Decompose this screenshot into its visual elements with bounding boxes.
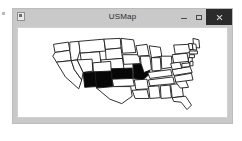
- state-de[interactable]: Delaware: [190, 61, 193, 65]
- close-icon: [216, 14, 223, 21]
- state-mi[interactable]: Michigan: [149, 46, 162, 58]
- state-ar[interactable]: Arkansas: [134, 79, 148, 89]
- state-la[interactable]: Louisiana: [132, 90, 149, 99]
- state-ks[interactable]: Kansas: [111, 68, 133, 79]
- state-nm[interactable]: New Mexico: [95, 71, 113, 88]
- state-mn[interactable]: Minnesota: [121, 38, 136, 53]
- window-controls: [176, 9, 232, 25]
- united-states-map[interactable]: WashingtonOregonIdahoMontanaWyomingNorth…: [18, 28, 227, 117]
- state-ma[interactable]: Massachusetts: [189, 51, 197, 54]
- minimize-icon: [181, 18, 187, 19]
- state-pa[interactable]: Pennsylvania: [172, 53, 188, 63]
- close-button[interactable]: [206, 9, 232, 25]
- state-fl[interactable]: Florida: [172, 96, 191, 109]
- state-sd[interactable]: South Dakota: [105, 48, 122, 60]
- state-wi[interactable]: Wisconsin: [136, 44, 149, 56]
- state-al[interactable]: Alabama: [160, 85, 171, 98]
- state-mt[interactable]: Montana: [79, 39, 106, 53]
- maximize-icon: [196, 15, 202, 20]
- usmap-application-window: USMap WashingtonOregonIdahoMontanaWyomin…: [12, 8, 233, 124]
- window-title-bar[interactable]: USMap: [13, 9, 232, 25]
- desktop-artifact-dot: [2, 12, 5, 15]
- state-md[interactable]: Maryland: [182, 63, 190, 67]
- state-nh[interactable]: New Hampshire: [192, 44, 196, 51]
- map-client-area: WashingtonOregonIdahoMontanaWyomingNorth…: [17, 27, 228, 118]
- state-ms[interactable]: Mississippi: [148, 86, 160, 99]
- state-az[interactable]: Arizona: [83, 72, 96, 88]
- state-tx[interactable]: Texas: [97, 87, 133, 104]
- states-layer: WashingtonOregonIdahoMontanaWyomingNorth…: [53, 38, 200, 109]
- state-ok[interactable]: Oklahoma: [112, 78, 134, 86]
- maximize-button[interactable]: [191, 9, 206, 25]
- minimize-button[interactable]: [176, 9, 191, 25]
- state-in[interactable]: Indiana: [151, 58, 161, 71]
- state-or[interactable]: Oregon: [53, 50, 72, 62]
- state-oh[interactable]: Ohio: [161, 56, 172, 69]
- state-ny[interactable]: New York: [174, 44, 191, 54]
